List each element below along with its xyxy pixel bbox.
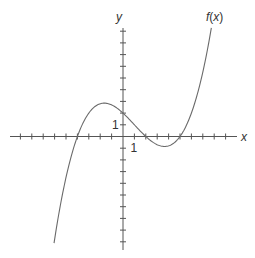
y-axis: y 1 xyxy=(112,10,126,250)
function-graph: x 1 y 1 f(x) xyxy=(0,0,255,258)
x-tick-label-1: 1 xyxy=(130,141,137,155)
x-axis: x 1 xyxy=(10,130,248,155)
function-paren-close: ) xyxy=(219,10,223,24)
function-curve xyxy=(54,28,211,243)
function-label: f(x) xyxy=(206,10,223,24)
y-axis-label: y xyxy=(115,10,123,24)
x-axis-label: x xyxy=(240,130,248,144)
y-tick-label-1: 1 xyxy=(112,118,119,132)
